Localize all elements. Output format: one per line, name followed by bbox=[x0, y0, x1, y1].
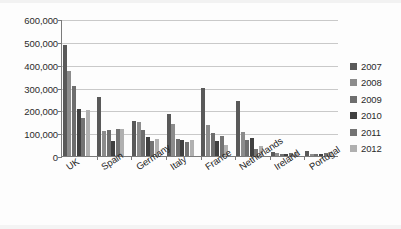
x-axis-label-portugal: Portugal bbox=[307, 144, 342, 172]
legend-item-2011[interactable]: 2011 bbox=[350, 124, 401, 141]
legend-label: 2009 bbox=[361, 94, 382, 105]
legend-swatch-icon bbox=[350, 145, 357, 152]
legend-item-2008[interactable]: 2008 bbox=[350, 75, 401, 92]
legend-label: 2010 bbox=[361, 110, 382, 121]
legend-label: 2012 bbox=[361, 143, 382, 154]
legend-item-2012[interactable]: 2012 bbox=[350, 141, 401, 158]
legend-swatch-icon bbox=[350, 79, 357, 86]
legend-item-2007[interactable]: 2007 bbox=[350, 58, 401, 75]
legend-swatch-icon bbox=[350, 112, 357, 119]
x-axis-label-spain: Spain bbox=[99, 150, 125, 172]
legend-label: 2011 bbox=[361, 127, 381, 138]
legend-label: 2007 bbox=[361, 61, 382, 72]
x-axis-label-germany: Germany bbox=[134, 142, 172, 173]
x-axis-label-france: France bbox=[203, 147, 233, 172]
legend-label: 2008 bbox=[361, 77, 382, 88]
chart-legend: 200720082009201020112012 bbox=[350, 58, 401, 157]
x-axis-label-italy: Italy bbox=[168, 154, 188, 173]
legend-swatch-icon bbox=[350, 129, 357, 136]
legend-item-2009[interactable]: 2009 bbox=[350, 91, 401, 108]
x-axis-labels: UKSpainGermanyItalyFranceNetherlandsIrel… bbox=[0, 0, 401, 229]
legend-item-2010[interactable]: 2010 bbox=[350, 108, 401, 125]
legend-swatch-icon bbox=[350, 96, 357, 103]
bar-chart: 0100,000200,000300,000400,000500,000600,… bbox=[0, 0, 401, 229]
x-axis-label-ireland: Ireland bbox=[272, 147, 302, 172]
x-axis-label-uk: UK bbox=[64, 156, 81, 172]
legend-swatch-icon bbox=[350, 63, 357, 70]
